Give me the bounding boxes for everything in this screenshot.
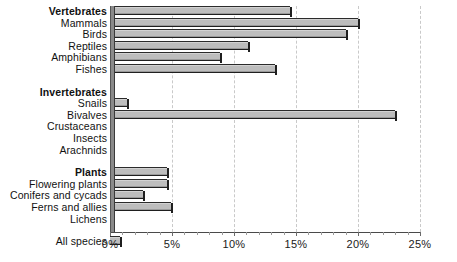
x-tick-label-20pct: 20% — [347, 238, 370, 250]
bar-bivalves — [110, 110, 395, 119]
x-tick-label-25pct: 25% — [409, 238, 432, 250]
bar-conifers-and-cycads — [110, 190, 143, 199]
x-tick-1 — [122, 232, 123, 235]
x-tick-9 — [222, 232, 223, 235]
gridline-15 — [296, 6, 297, 232]
gridline-20 — [358, 6, 359, 232]
label-reptiles: Reptiles — [0, 40, 107, 52]
x-tick-label-15pct: 15% — [285, 238, 308, 250]
x-tick-20 — [358, 232, 359, 236]
x-tick-18 — [333, 232, 334, 235]
bar-plants — [110, 167, 167, 176]
x-tick-17 — [321, 232, 322, 235]
y-axis-baseline — [110, 6, 115, 232]
x-tick-5 — [172, 232, 173, 236]
label-conifers-and-cycads: Conifers and cycads — [0, 189, 107, 201]
label-crustaceans: Crustaceans — [0, 120, 107, 132]
label-birds: Birds — [0, 28, 107, 40]
x-tick-label-0pct: 0% — [102, 238, 119, 250]
x-tick-25 — [420, 232, 421, 236]
label-vertebrates: Vertebrates — [0, 5, 107, 17]
label-mammals: Mammals — [0, 17, 107, 29]
x-tick-4 — [160, 232, 161, 235]
x-axis-line — [110, 232, 421, 233]
bar-chart: VertebratesMammalsBirdsReptilesAmphibian… — [0, 0, 457, 262]
label-bivalves: Bivalves — [0, 109, 107, 121]
x-tick-12 — [259, 232, 260, 235]
label-arachnids: Arachnids — [0, 144, 107, 156]
label-flowering-plants: Flowering plants — [0, 178, 107, 190]
bar-birds — [110, 29, 346, 38]
bar-mammals — [110, 18, 358, 27]
x-tick-label-10pct: 10% — [223, 238, 246, 250]
bar-ferns-and-allies — [110, 202, 171, 211]
label-fishes: Fishes — [0, 63, 107, 75]
x-tick-label-5pct: 5% — [164, 238, 181, 250]
bar-fishes — [110, 64, 275, 73]
bar-reptiles — [110, 41, 248, 50]
label-snails: Snails — [0, 97, 107, 109]
label-lichens: Lichens — [0, 213, 107, 225]
x-tick-22 — [383, 232, 384, 235]
x-tick-6 — [184, 232, 185, 235]
gridline-25 — [420, 6, 421, 232]
x-tick-24 — [408, 232, 409, 235]
label-all-species: All species — [0, 235, 107, 247]
x-tick-14 — [284, 232, 285, 235]
x-tick-0 — [110, 232, 111, 236]
label-amphibians: Amphibians — [0, 51, 107, 63]
x-tick-13 — [271, 232, 272, 235]
x-tick-3 — [147, 232, 148, 235]
bar-amphibians — [110, 52, 220, 61]
bar-flowering-plants — [110, 179, 167, 188]
x-tick-19 — [346, 232, 347, 235]
x-tick-11 — [246, 232, 247, 235]
label-invertebrates: Invertebrates — [0, 86, 107, 98]
x-tick-2 — [135, 232, 136, 235]
x-tick-10 — [234, 232, 235, 236]
x-tick-16 — [308, 232, 309, 235]
x-tick-23 — [395, 232, 396, 235]
plot-area — [110, 6, 420, 232]
x-tick-8 — [209, 232, 210, 235]
x-tick-21 — [370, 232, 371, 235]
x-tick-15 — [296, 232, 297, 236]
label-ferns-and-allies: Ferns and allies — [0, 201, 107, 213]
label-insects: Insects — [0, 132, 107, 144]
label-plants: Plants — [0, 166, 107, 178]
x-tick-7 — [197, 232, 198, 235]
bar-vertebrates — [110, 6, 290, 15]
